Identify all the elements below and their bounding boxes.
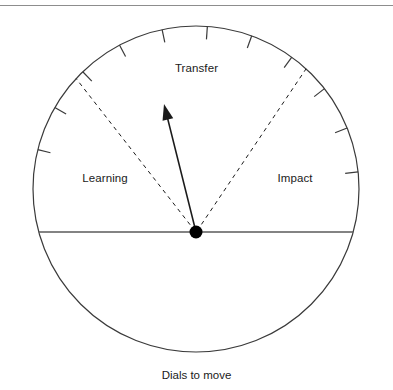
dial-tick-1 <box>335 128 347 133</box>
dial-tick-2 <box>314 89 324 97</box>
sector-divider-right <box>197 69 306 231</box>
dial-tick-10 <box>38 150 51 153</box>
figure-canvas: Transfer Learning Impact Dials to move <box>0 0 393 390</box>
sector-label-impact: Impact <box>250 172 340 184</box>
dial-diagram <box>0 0 393 390</box>
dial-tick-6 <box>162 30 165 43</box>
needle-shaft[interactable] <box>167 115 196 232</box>
needle-arrowhead[interactable] <box>163 104 174 121</box>
sector-label-learning: Learning <box>60 172 150 184</box>
dial-outer-circle <box>33 26 359 352</box>
dial-hub[interactable] <box>190 226 203 239</box>
dial-tick-5 <box>206 26 207 39</box>
dial-tick-7 <box>119 45 125 56</box>
dial-tick-9 <box>55 108 66 115</box>
sector-label-transfer: Transfer <box>0 62 393 74</box>
dial-tick-marks <box>38 26 358 173</box>
dial-tick-0 <box>345 172 358 173</box>
dial-tick-4 <box>247 36 251 48</box>
figure-caption: Dials to move <box>0 369 393 381</box>
